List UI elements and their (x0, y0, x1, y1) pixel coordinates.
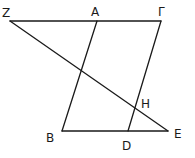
point-label-e: E (174, 127, 182, 141)
point-label-z: Z (2, 6, 10, 20)
point-label-b: B (46, 131, 54, 145)
point-label-d: D (122, 139, 131, 153)
diagram-svg: ZAΓBDEH (0, 0, 195, 158)
segment-ab (62, 21, 97, 131)
segments (10, 21, 168, 131)
point-label-h: H (141, 97, 150, 111)
point-label-g: Γ (158, 5, 165, 19)
geometry-diagram: ZAΓBDEH (0, 0, 195, 158)
point-label-a: A (91, 5, 100, 19)
